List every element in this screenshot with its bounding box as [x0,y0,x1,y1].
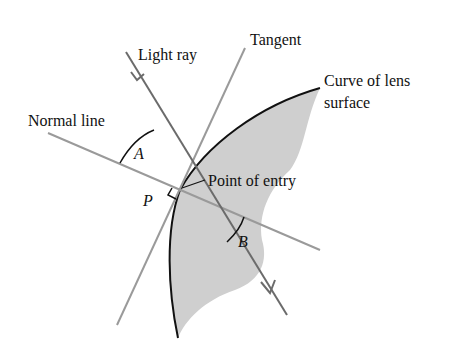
label-normal-line: Normal line [28,112,105,129]
refraction-diagram: Light ray Tangent Curve of lens surface … [0,0,458,360]
label-angle-a: A [133,145,144,162]
label-curve-1: Curve of lens [324,72,410,89]
lens-region [170,88,320,338]
label-point-of-entry: Point of entry [208,172,296,190]
label-tangent: Tangent [250,31,302,49]
right-angle-marker [168,188,176,199]
label-light-ray: Light ray [138,46,197,64]
label-curve-2: surface [324,94,370,111]
label-angle-b: B [238,233,248,250]
label-point-p: P [142,192,153,209]
